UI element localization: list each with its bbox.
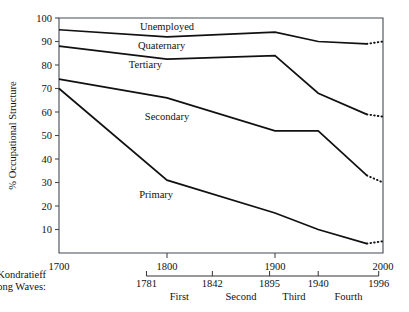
y-axis-tick-label: 20 — [42, 201, 53, 212]
region-label-tertiary: Tertiary — [129, 59, 163, 70]
series-line — [59, 46, 367, 114]
kondratieff-wave-label-second: Second — [226, 291, 258, 302]
y-axis-tick-label: 50 — [42, 130, 53, 141]
kondratieff-wave-label-fourth: Fourth — [334, 291, 363, 302]
series-projection-line — [367, 114, 383, 116]
y-axis-tick-label: 40 — [42, 154, 53, 165]
region-label-secondary: Secondary — [145, 111, 190, 122]
x-axis-tick-label: 2000 — [373, 261, 394, 272]
kondratieff-year-label: 1781 — [136, 278, 157, 289]
y-axis-tick-label: 70 — [42, 83, 53, 94]
kondratieff-axis-title-line2: Long Waves: — [0, 281, 46, 292]
plot-frame — [59, 18, 383, 253]
kondratieff-year-label: 1996 — [368, 278, 389, 289]
y-axis-tick-label: 10 — [42, 224, 53, 235]
series-projection-line — [367, 241, 383, 243]
occupational-structure-chart: 100908070605040302010% Occupational Stru… — [0, 0, 409, 312]
series-projection-line — [367, 175, 383, 182]
x-axis-tick-label: 1800 — [157, 261, 178, 272]
x-axis-tick-label: 1900 — [265, 261, 286, 272]
kondratieff-wave-label-third: Third — [282, 291, 306, 302]
kondratieff-year-label: 1895 — [259, 278, 280, 289]
region-label-quaternary: Quaternary — [138, 40, 186, 51]
x-axis-tick-label: 1700 — [49, 261, 70, 272]
series-line — [59, 30, 367, 44]
kondratieff-wave-label-first: First — [170, 291, 189, 302]
y-axis-tick-label: 100 — [36, 13, 52, 24]
series-projection-line — [367, 42, 383, 44]
y-axis-title: % Occupational Structure — [7, 81, 18, 190]
y-axis-tick-label: 80 — [42, 60, 53, 71]
y-axis-tick-label: 90 — [42, 36, 53, 47]
kondratieff-axis-title-line1: Kondratieff — [0, 269, 46, 280]
y-axis-tick-label: 60 — [42, 107, 53, 118]
y-axis-tick-label: 30 — [42, 177, 53, 188]
kondratieff-year-label: 1940 — [308, 278, 329, 289]
region-label-unemployed: Unemployed — [140, 21, 195, 32]
region-label-primary: Primary — [139, 189, 174, 200]
kondratieff-year-label: 1842 — [202, 278, 223, 289]
chart-canvas: 100908070605040302010% Occupational Stru… — [0, 0, 409, 312]
